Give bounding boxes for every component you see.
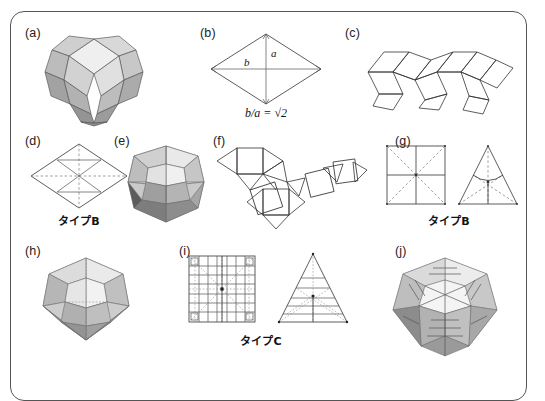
panel-g: (g) タイプB bbox=[369, 134, 529, 239]
square-and-triangle-pleated-crease-pattern bbox=[161, 244, 361, 330]
figure-frame: (a) bbox=[10, 11, 527, 401]
rhombic-net-zigzag bbox=[341, 22, 521, 122]
panel-b-letter: (b) bbox=[200, 26, 216, 40]
panel-i-caption: タイプC bbox=[161, 332, 361, 348]
panel-h: (h) bbox=[19, 244, 154, 369]
panel-b: (b) a b b/a = √2 bbox=[196, 22, 336, 137]
panel-i: (i) bbox=[161, 244, 361, 374]
folded-pleated-polyhedron-3d bbox=[363, 244, 528, 364]
rhombus-with-diagonals: a b bbox=[196, 22, 336, 117]
square-and-triangle-crease-pattern bbox=[369, 134, 529, 214]
folded-rhombic-solid-3d bbox=[106, 134, 226, 234]
label-b: b bbox=[244, 56, 250, 68]
panel-b-caption: b/a = √2 bbox=[196, 106, 336, 121]
panel-c-letter: (c) bbox=[345, 26, 360, 40]
rhombic-dodecahedron-3d bbox=[19, 22, 169, 137]
panel-e-letter: (e) bbox=[114, 134, 130, 148]
label-a: a bbox=[271, 47, 277, 59]
panel-f: (f) bbox=[209, 134, 369, 239]
panel-g-caption: タイプB bbox=[369, 212, 529, 228]
folded-cuboctahedron-3d bbox=[19, 244, 154, 354]
panel-d-letter: (d) bbox=[25, 134, 41, 148]
panel-i-letter: (i) bbox=[179, 244, 191, 258]
panel-f-letter: (f) bbox=[213, 134, 225, 148]
panel-g-letter: (g) bbox=[395, 134, 411, 148]
panel-a-letter: (a) bbox=[25, 26, 41, 40]
panel-a: (a) bbox=[19, 22, 169, 137]
panel-j: (j) bbox=[363, 244, 528, 374]
panel-j-letter: (j) bbox=[395, 244, 407, 258]
panel-e: (e) bbox=[106, 134, 226, 239]
panel-c: (c) bbox=[341, 22, 521, 137]
panel-h-letter: (h) bbox=[25, 244, 41, 258]
square-triangle-net bbox=[209, 134, 369, 234]
